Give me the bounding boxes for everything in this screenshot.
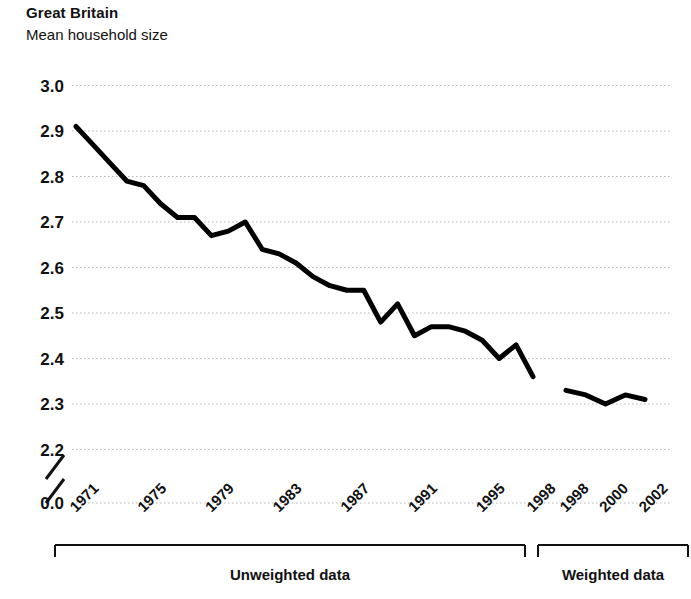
x-tick-label: 2000 xyxy=(596,480,632,516)
x-axis-tick-labels: 1971197519791983198719911995199819982000… xyxy=(66,480,671,516)
series-line-weighted xyxy=(566,390,645,404)
y-tick-label: 2.5 xyxy=(40,304,64,323)
line-chart-plot: 3.02.92.82.72.62.52.42.32.20.0 197119751… xyxy=(0,0,691,599)
chart-container: Great Britain Mean household size 3.02.9… xyxy=(0,0,691,599)
bracket-unweighted xyxy=(55,545,525,557)
x-tick-label: 1987 xyxy=(337,480,373,516)
gridlines-group xyxy=(72,86,672,504)
x-tick-label: 2002 xyxy=(635,480,671,516)
x-tick-label: 1998 xyxy=(556,480,592,516)
x-tick-label: 1975 xyxy=(134,480,170,516)
x-tick-label: 1991 xyxy=(405,480,441,516)
x-tick-label: 1995 xyxy=(472,480,508,516)
group-labels: Unweighted dataWeighted data xyxy=(230,566,665,583)
y-tick-label: 2.6 xyxy=(40,259,64,278)
y-tick-label: 2.4 xyxy=(40,350,64,369)
x-tick-label: 1983 xyxy=(269,480,305,516)
y-tick-label: 3.0 xyxy=(40,77,64,96)
y-axis-tick-labels: 3.02.92.82.72.62.52.42.32.20.0 xyxy=(40,77,64,514)
y-tick-label: 2.9 xyxy=(40,122,64,141)
bracket-weighted xyxy=(538,545,688,557)
group-label-unweighted: Unweighted data xyxy=(230,566,351,583)
y-tick-label: 2.3 xyxy=(40,395,64,414)
series-line-unweighted xyxy=(76,126,533,376)
y-tick-label: 2.2 xyxy=(40,441,64,460)
x-tick-label: 1971 xyxy=(66,480,102,516)
y-tick-label: 2.8 xyxy=(40,168,64,187)
x-tick-label: 1998 xyxy=(523,480,559,516)
y-tick-label: 2.7 xyxy=(40,213,64,232)
group-brackets xyxy=(55,545,688,557)
group-label-weighted: Weighted data xyxy=(562,566,665,583)
data-series-group xyxy=(76,126,645,404)
x-tick-label: 1979 xyxy=(202,480,238,516)
